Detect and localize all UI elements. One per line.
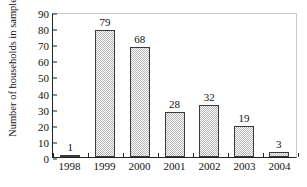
bar-slot: 68 bbox=[122, 14, 157, 157]
bar-slot: 32 bbox=[192, 14, 227, 157]
y-tick-label: 80 bbox=[38, 25, 49, 36]
y-tick-label: 60 bbox=[38, 57, 49, 68]
bar[interactable] bbox=[269, 152, 289, 157]
x-tick-mark bbox=[123, 153, 124, 157]
x-tick-mark bbox=[193, 153, 194, 157]
x-tick-mark bbox=[158, 153, 159, 157]
x-tick-label: 2001 bbox=[157, 160, 192, 172]
y-tick-label: 20 bbox=[38, 121, 49, 132]
bar-value-label: 32 bbox=[204, 92, 215, 103]
y-tick-label: 70 bbox=[38, 41, 49, 52]
bar-slot: 1 bbox=[53, 14, 88, 157]
bar[interactable] bbox=[199, 105, 219, 157]
bar-value-label: 1 bbox=[68, 142, 74, 153]
bar-slot: 3 bbox=[261, 14, 296, 157]
y-tick-label: 90 bbox=[38, 9, 49, 20]
x-tick-label: 2000 bbox=[122, 160, 157, 172]
x-tick-mark bbox=[298, 153, 299, 157]
plot-area: 0102030405060708090 179682832193 bbox=[52, 13, 297, 158]
y-axis-title: Number of households in sample bbox=[7, 0, 18, 143]
y-tick-label: 40 bbox=[38, 89, 49, 100]
x-tick-mark bbox=[88, 153, 89, 157]
bar-value-label: 79 bbox=[100, 17, 111, 28]
bar-value-label: 28 bbox=[169, 99, 180, 110]
y-tick-label: 30 bbox=[38, 105, 49, 116]
x-tick-mark bbox=[228, 153, 229, 157]
bar-value-label: 19 bbox=[238, 113, 249, 124]
bar-slot: 19 bbox=[227, 14, 262, 157]
x-tick-mark bbox=[263, 153, 264, 157]
bar[interactable] bbox=[130, 47, 150, 157]
bar-slot: 28 bbox=[157, 14, 192, 157]
bar[interactable] bbox=[95, 30, 115, 157]
x-axis-tick-labels: 1998199920002001200220032004 bbox=[52, 160, 297, 172]
x-tick-label: 2004 bbox=[262, 160, 297, 172]
y-tick-label: 50 bbox=[38, 73, 49, 84]
y-tick-label: 10 bbox=[38, 137, 49, 148]
bar[interactable] bbox=[60, 155, 80, 158]
bar-value-label: 68 bbox=[134, 34, 145, 45]
x-tick-label: 1999 bbox=[87, 160, 122, 172]
bar[interactable] bbox=[165, 112, 185, 157]
bar-value-label: 3 bbox=[276, 139, 282, 150]
y-tick-label: 0 bbox=[44, 154, 50, 165]
bar-slot: 79 bbox=[88, 14, 123, 157]
x-tick-label: 1998 bbox=[52, 160, 87, 172]
bar[interactable] bbox=[234, 126, 254, 157]
x-tick-mark bbox=[53, 153, 54, 157]
x-tick-label: 2003 bbox=[227, 160, 262, 172]
bars-layer: 179682832193 bbox=[53, 14, 296, 157]
bar-chart-figure: Number of households in sample 010203040… bbox=[0, 0, 307, 187]
x-tick-label: 2002 bbox=[192, 160, 227, 172]
